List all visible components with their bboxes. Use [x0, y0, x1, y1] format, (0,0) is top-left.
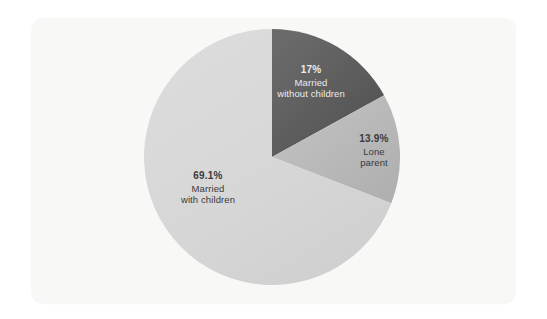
pie-chart-svg — [144, 29, 400, 285]
pie-chart: 17% Married without children 13.9% Lone … — [0, 0, 547, 319]
screenshot-root: 17% Married without children 13.9% Lone … — [0, 0, 547, 319]
